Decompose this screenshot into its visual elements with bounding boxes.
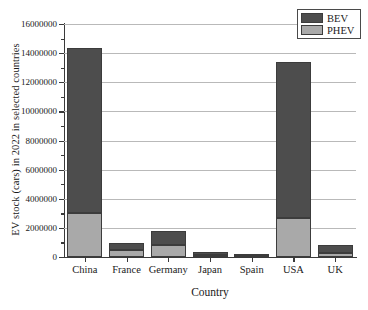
y-axis-tick-label: 16000000 — [21, 19, 57, 29]
x-axis-tick — [168, 258, 169, 262]
bar-segment-bev — [276, 62, 311, 218]
bar-group — [234, 24, 269, 257]
x-axis-tick — [127, 258, 128, 262]
x-axis-ticks — [64, 258, 357, 263]
y-axis-tick-major — [59, 24, 64, 25]
bar-group — [151, 24, 186, 257]
y-axis-tick-major — [59, 53, 64, 54]
y-axis-tick-labels: 0200000040000006000000800000010000000120… — [0, 24, 57, 257]
y-axis-tick-major — [59, 141, 64, 142]
bar-segment-bev — [151, 231, 186, 245]
y-axis-tick-minor — [61, 184, 64, 185]
bar-segment-phev — [193, 255, 228, 257]
chart-legend: BEVPHEV — [297, 9, 361, 39]
y-axis-tick-label: 6000000 — [26, 165, 58, 175]
x-axis-tick-label-china: China — [72, 264, 97, 275]
y-axis-tick-major — [59, 199, 64, 200]
legend-entry-bev: BEV — [301, 12, 357, 24]
legend-swatch-phev — [301, 25, 323, 35]
x-axis-tick-label-usa: USA — [283, 264, 304, 275]
x-axis-tick — [85, 258, 86, 262]
bar-segment-phev — [109, 250, 144, 257]
y-axis-tick-minor — [61, 68, 64, 69]
x-axis-tick — [210, 258, 211, 262]
x-axis-tick — [335, 258, 336, 262]
bar-segment-phev — [318, 253, 353, 257]
bar-segment-bev — [67, 48, 102, 213]
y-axis-tick-major — [59, 82, 64, 83]
x-axis-tick-label-uk: UK — [328, 264, 343, 275]
y-axis-tick-label: 0 — [53, 252, 58, 262]
bar-group — [276, 24, 311, 257]
plot-area — [64, 24, 356, 257]
y-axis-tick-major — [59, 111, 64, 112]
bar-segment-phev — [151, 245, 186, 257]
bar-segment-phev — [67, 213, 102, 257]
y-axis-tick-minor — [61, 213, 64, 214]
y-axis-tick-major — [59, 228, 64, 229]
legend-label-bev: BEV — [327, 13, 348, 24]
bar-segment-bev — [234, 254, 269, 256]
x-axis-title: Country — [60, 286, 360, 298]
bar-segment-bev — [109, 243, 144, 250]
x-axis-tick — [293, 258, 294, 262]
y-axis-tick-minor — [61, 97, 64, 98]
x-axis-tick-label-japan: Japan — [198, 264, 222, 275]
y-axis-tick-minor — [61, 39, 64, 40]
bar-group — [67, 24, 102, 257]
legend-entry-phev: PHEV — [301, 24, 357, 36]
y-axis-tick-label: 14000000 — [21, 48, 57, 58]
legend-swatch-bev — [301, 13, 323, 23]
bar-group — [109, 24, 144, 257]
x-axis-tick-label-germany: Germany — [149, 264, 188, 275]
y-axis-tick-major — [59, 170, 64, 171]
bar-group — [193, 24, 228, 257]
x-axis-tick-label-france: France — [112, 264, 141, 275]
legend-label-phev: PHEV — [327, 25, 354, 36]
y-axis-tick-label: 10000000 — [21, 106, 57, 116]
x-axis-tick — [252, 258, 253, 262]
y-axis-tick-minor — [61, 155, 64, 156]
bar-segment-phev — [276, 218, 311, 257]
y-axis-tick-minor — [61, 242, 64, 243]
bar-segment-bev — [193, 252, 228, 255]
ev-stock-stacked-bar-chart: EV stock (cars) in 2022 in selected coun… — [0, 0, 368, 310]
bar-group — [318, 24, 353, 257]
bar-segment-bev — [318, 245, 353, 253]
y-axis-tick-label: 12000000 — [21, 77, 57, 87]
y-axis-tick-label: 4000000 — [26, 194, 58, 204]
x-axis-tick-label-spain: Spain — [240, 264, 264, 275]
y-axis-tick-label: 2000000 — [26, 223, 58, 233]
y-axis-tick-label: 8000000 — [26, 136, 58, 146]
y-axis-tick-minor — [61, 126, 64, 127]
